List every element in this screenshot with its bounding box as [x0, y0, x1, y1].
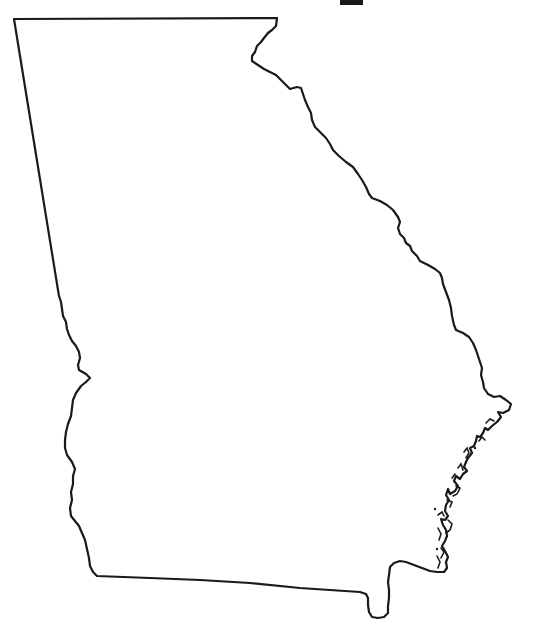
state-boundary [14, 18, 511, 618]
coastal-dot-3 [436, 548, 438, 550]
coastal-dot-1 [474, 447, 476, 449]
coastal-dot-2 [434, 508, 436, 510]
georgia-outline-map [0, 0, 535, 640]
